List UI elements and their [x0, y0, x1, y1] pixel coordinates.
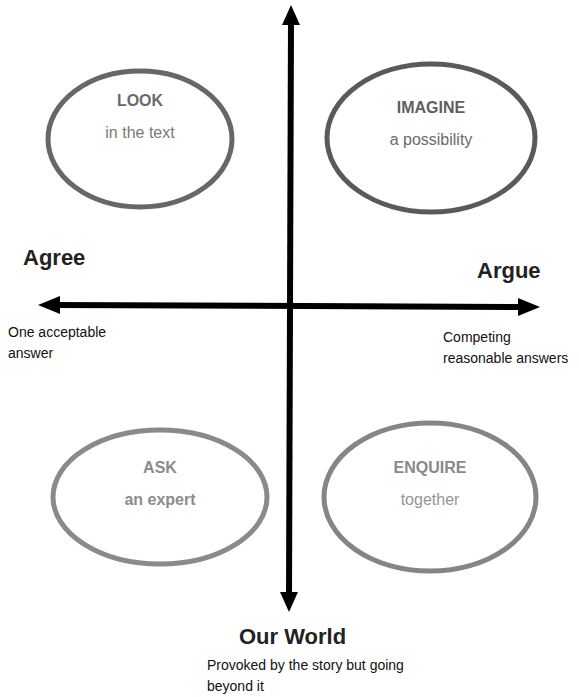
look-subtitle: in the text: [60, 124, 220, 142]
imagine-label: IMAGINE a possibility: [351, 99, 511, 149]
arrow-down-icon: [280, 592, 298, 612]
agree-description: One acceptable answer: [8, 322, 106, 364]
arrow-up-icon: [282, 5, 300, 25]
agree-label: Agree: [23, 245, 85, 271]
argue-label: Argue: [477, 258, 541, 284]
our-world-description-line1: Provoked by the story but going: [207, 655, 404, 676]
imagine-subtitle: a possibility: [351, 131, 511, 149]
arrow-left-icon: [38, 296, 60, 314]
argue-description-line2: reasonable answers: [443, 348, 568, 369]
our-world-description: Provoked by the story but going beyond i…: [207, 655, 404, 697]
enquire-label: ENQUIRE together: [350, 459, 510, 509]
enquire-title: ENQUIRE: [350, 459, 510, 477]
ask-title: ASK: [80, 459, 240, 477]
our-world-description-line2: beyond it: [207, 676, 404, 697]
agree-description-line2: answer: [8, 343, 106, 364]
our-world-label: Our World: [239, 624, 346, 650]
imagine-title: IMAGINE: [351, 99, 511, 117]
arrow-right-icon: [518, 298, 540, 316]
enquire-subtitle: together: [350, 491, 510, 509]
agree-description-line1: One acceptable: [8, 322, 106, 343]
argue-description: Competing reasonable answers: [443, 327, 568, 369]
ask-label: ASK an expert: [80, 459, 240, 509]
look-label: LOOK in the text: [60, 92, 220, 142]
ask-subtitle: an expert: [80, 491, 240, 509]
look-title: LOOK: [60, 92, 220, 110]
argue-description-line1: Competing: [443, 327, 568, 348]
